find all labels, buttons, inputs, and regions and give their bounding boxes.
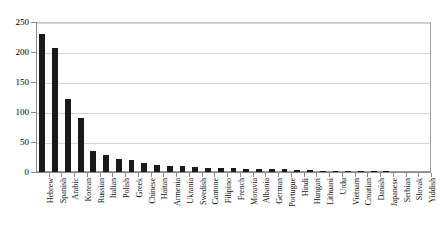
x-axis-tick-label: Albania [262, 178, 271, 203]
x-axis-tick-mark [189, 173, 190, 177]
x-axis-tick-label: Arabic [71, 178, 80, 200]
x-axis-tick-label: Italian [109, 178, 118, 198]
x-axis-tick-label: Urdu [339, 178, 348, 194]
x-axis-tick-mark [431, 173, 432, 177]
y-axis-tick-label: 250 [16, 18, 30, 27]
bar-chart: 050100150200250 HebrewSpanishArabicKorea… [0, 0, 445, 235]
bar [78, 118, 84, 173]
x-axis-tick-mark [87, 173, 88, 177]
x-axis-tick-mark [112, 173, 113, 177]
x-axis-tick-mark [202, 173, 203, 177]
x-axis-tick-label: French [237, 178, 246, 200]
x-axis-tick-mark [214, 173, 215, 177]
x-axis-tick-label: Swedish [199, 178, 208, 205]
x-axis-tick-mark [61, 173, 62, 177]
y-axis-tick-label: 0 [25, 168, 30, 177]
x-axis-tick-label: Portugue [288, 178, 297, 207]
x-axis-tick-mark [329, 173, 330, 177]
bar [52, 48, 58, 173]
x-axis-tick-label: Serbian [403, 178, 412, 202]
x-axis-ticks [36, 173, 431, 177]
x-axis-tick-mark [304, 173, 305, 177]
bar [39, 34, 45, 173]
x-axis-tick-label: Haitan [160, 178, 169, 199]
x-axis-tick-label: Spanish [59, 178, 68, 203]
bar [103, 155, 109, 173]
bar [90, 151, 96, 173]
x-axis-labels: HebrewSpanishArabicKoreanRussianItalianP… [36, 178, 431, 235]
x-axis-tick-mark [227, 173, 228, 177]
x-axis-tick-mark [253, 173, 254, 177]
x-axis-tick-label: Polish [122, 178, 131, 198]
x-axis-tick-label: Armenia [173, 178, 182, 206]
x-axis-tick-label: Ukrania [186, 178, 195, 204]
x-axis-tick-mark [151, 173, 152, 177]
x-axis-tick-mark [240, 173, 241, 177]
bar [116, 159, 122, 173]
x-axis-tick-label: Moravia [250, 178, 259, 205]
x-axis-tick-mark [291, 173, 292, 177]
x-axis-tick-label: Yiddish [428, 178, 437, 203]
x-axis-tick-mark [265, 173, 266, 177]
x-axis-tick-label: Korean [84, 178, 93, 202]
x-axis-tick-mark [278, 173, 279, 177]
x-axis-tick-label: Greek [135, 178, 144, 198]
x-axis-tick-label: Hungari [313, 178, 322, 204]
y-axis-tick-label: 200 [16, 48, 30, 57]
x-axis-tick-label: Croatian [364, 178, 373, 205]
bar [65, 99, 71, 173]
x-axis-tick-mark [342, 173, 343, 177]
x-axis-tick-mark [418, 173, 419, 177]
x-axis-tick-mark [74, 173, 75, 177]
x-axis-tick-mark [367, 173, 368, 177]
x-axis-tick-label: Chinese [148, 178, 157, 204]
x-axis-tick-label: Japanese [390, 178, 399, 206]
x-axis-tick-mark [406, 173, 407, 177]
x-axis-tick-mark [393, 173, 394, 177]
x-axis-tick-mark [380, 173, 381, 177]
x-axis-tick-mark [316, 173, 317, 177]
x-axis-tick-label: Hindi [301, 178, 310, 196]
x-axis-tick-mark [355, 173, 356, 177]
x-axis-tick-label: German [275, 178, 284, 204]
bars-container [36, 22, 431, 173]
x-axis-tick-label: Slovak [415, 178, 424, 200]
x-axis-tick-label: Lithuani [326, 178, 335, 205]
x-axis-tick-mark [163, 173, 164, 177]
x-axis-tick-label: Russian [97, 178, 106, 203]
x-axis-tick-mark [125, 173, 126, 177]
x-axis-tick-label: Filipino [224, 178, 233, 203]
x-axis-tick-mark [138, 173, 139, 177]
x-axis-tick-label: Cantone [211, 178, 220, 205]
x-axis-tick-mark [176, 173, 177, 177]
y-axis-ticks: 050100150200250 [0, 0, 36, 173]
y-axis-tick-label: 100 [16, 108, 30, 117]
x-axis-tick-label: Hebrew [46, 178, 55, 203]
x-axis-tick-label: Vietnam [352, 178, 361, 205]
x-axis-tick-mark [100, 173, 101, 177]
y-axis-tick-label: 150 [16, 78, 30, 87]
x-axis-tick-mark [49, 173, 50, 177]
y-axis-tick-label: 50 [20, 138, 29, 147]
x-axis-tick-label: Danish [377, 178, 386, 201]
